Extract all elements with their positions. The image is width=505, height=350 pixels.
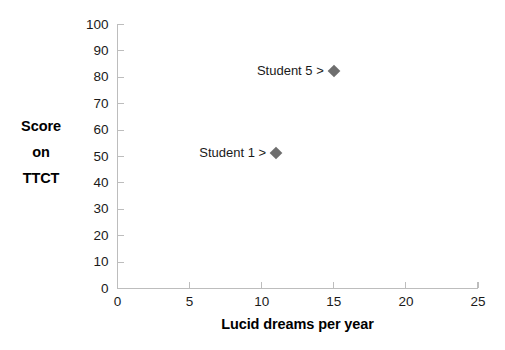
x-tick-label: 0: [98, 295, 138, 309]
y-tick-mark: [118, 288, 124, 289]
x-axis-line: [117, 288, 478, 289]
y-tick-mark: [118, 50, 124, 51]
y-tick-label: 90: [69, 44, 109, 58]
x-tick-mark: [405, 282, 406, 288]
y-tick-label: 80: [69, 70, 109, 84]
y-tick-mark: [118, 130, 124, 131]
x-tick-label: 15: [314, 295, 354, 309]
x-axis-title: Lucid dreams per year: [117, 316, 478, 332]
y-tick-label: 0: [69, 282, 109, 296]
data-point-label: Student 5 >: [124, 64, 324, 78]
data-point-marker[interactable]: [270, 146, 283, 159]
y-tick-label: 40: [69, 176, 109, 190]
x-tick-mark: [333, 282, 334, 288]
y-axis-title-line-2: on: [8, 139, 74, 165]
x-tick-label: 20: [386, 295, 426, 309]
y-tick-label: 100: [69, 18, 109, 32]
y-axis-title-line-1: Score: [8, 113, 74, 139]
x-tick-label: 10: [242, 295, 282, 309]
y-tick-label: 20: [69, 229, 109, 243]
scatter-chart: Score on TTCT 0102030405060708090100 051…: [0, 0, 505, 350]
y-tick-mark: [118, 235, 124, 236]
y-tick-mark: [118, 24, 124, 25]
y-tick-mark: [118, 262, 124, 263]
y-axis-title: Score on TTCT: [8, 113, 74, 191]
x-tick-mark: [261, 282, 262, 288]
x-tick-label: 25: [458, 295, 498, 309]
y-tick-label: 30: [69, 202, 109, 216]
y-tick-mark: [118, 103, 124, 104]
y-tick-label: 70: [69, 97, 109, 111]
y-tick-mark: [118, 182, 124, 183]
y-tick-label: 60: [69, 123, 109, 137]
x-tick-label: 5: [170, 295, 210, 309]
y-tick-mark: [118, 209, 124, 210]
x-tick-mark: [189, 282, 190, 288]
data-point-label: Student 1 >: [66, 146, 266, 160]
data-point-marker[interactable]: [327, 64, 340, 77]
y-tick-label: 10: [69, 255, 109, 269]
y-axis-title-line-3: TTCT: [8, 165, 74, 191]
x-tick-mark: [477, 282, 478, 288]
